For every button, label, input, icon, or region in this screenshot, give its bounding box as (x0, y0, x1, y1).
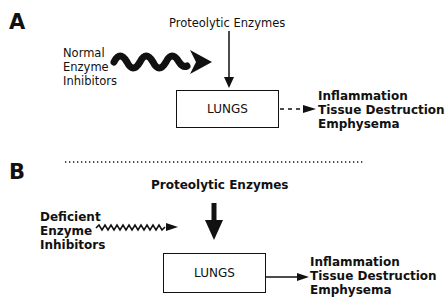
inhibitors-line: Normal (63, 46, 117, 60)
outcome-item: Tissue Destruction (318, 103, 445, 117)
outcome-arrow-b (265, 273, 309, 281)
outcome-item: Inflammation (310, 255, 437, 269)
panel-a-letter: A (9, 10, 25, 34)
inhibitors-label-b: Deficient Enzyme Inhibitors (40, 210, 105, 252)
inhibitor-arrow-a (114, 50, 212, 74)
enzymes-label-b: Proteolytic Enzymes (151, 178, 288, 192)
outcome-item: Emphysema (318, 117, 445, 131)
lungs-label: LUNGS (207, 102, 248, 116)
inhibitors-line: Enzyme (40, 224, 105, 238)
outcome-item: Inflammation (318, 89, 445, 103)
outcome-arrow-a (280, 105, 316, 113)
outcomes-a: Inflammation Tissue Destruction Emphysem… (318, 89, 445, 131)
outcome-item: Tissue Destruction (310, 269, 437, 283)
inhibitors-line: Inhibitors (63, 74, 117, 88)
inhibitor-arrow-b (96, 223, 178, 231)
lungs-box-b: LUNGS (163, 253, 266, 293)
enzymes-label-a: Proteolytic Enzymes (169, 16, 285, 30)
enzyme-arrow-a (224, 31, 234, 88)
inhibitors-label-a: Normal Enzyme Inhibitors (63, 46, 117, 88)
inhibitors-line: Deficient (40, 210, 105, 224)
lungs-label: LUNGS (194, 266, 235, 280)
lungs-box-a: LUNGS (176, 90, 279, 128)
outcome-item: Emphysema (310, 283, 437, 297)
inhibitors-line: Inhibitors (40, 238, 105, 252)
inhibitors-line: Enzyme (63, 60, 117, 74)
enzyme-arrow-b (205, 203, 223, 240)
outcomes-b: Inflammation Tissue Destruction Emphysem… (310, 255, 437, 297)
panel-b-letter: B (9, 160, 25, 184)
